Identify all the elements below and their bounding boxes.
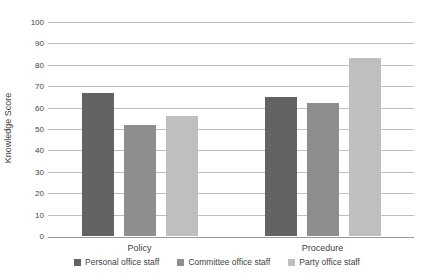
- y-tick-60: 60: [18, 105, 44, 113]
- category-label-procedure: Procedure: [273, 243, 373, 253]
- bar-policy-2: [166, 116, 198, 236]
- plot-area: [48, 23, 414, 237]
- y-tick-90: 90: [18, 40, 44, 48]
- x-axis-line: [48, 237, 414, 238]
- y-tick-0: 0: [18, 233, 44, 241]
- y-tick-40: 40: [18, 147, 44, 155]
- y-tick-80: 80: [18, 62, 44, 70]
- bar-procedure-2: [349, 58, 381, 236]
- legend-item-2: Party office staff: [288, 257, 360, 267]
- category-label-policy: Policy: [90, 243, 190, 253]
- legend-label: Party office staff: [299, 257, 360, 267]
- legend: Personal office staffCommittee office st…: [0, 257, 434, 267]
- bar-policy-0: [82, 93, 114, 236]
- gridline-90: [48, 43, 414, 44]
- y-tick-100: 100: [18, 19, 44, 27]
- y-tick-70: 70: [18, 83, 44, 91]
- legend-swatch-icon: [74, 259, 81, 266]
- y-tick-50: 50: [18, 126, 44, 134]
- legend-item-0: Personal office staff: [74, 257, 159, 267]
- legend-item-1: Committee office staff: [177, 257, 270, 267]
- bar-policy-1: [124, 125, 156, 236]
- y-tick-20: 20: [18, 190, 44, 198]
- legend-label: Committee office staff: [188, 257, 270, 267]
- legend-swatch-icon: [177, 259, 184, 266]
- legend-label: Personal office staff: [85, 257, 159, 267]
- bar-procedure-0: [265, 97, 297, 236]
- bar-procedure-1: [307, 103, 339, 236]
- bar-chart: Knowledge Score 0102030405060708090100 P…: [0, 0, 434, 278]
- y-tick-30: 30: [18, 169, 44, 177]
- gridline-100: [48, 22, 414, 23]
- y-axis-title: Knowledge Score: [3, 73, 13, 183]
- legend-swatch-icon: [288, 259, 295, 266]
- y-tick-10: 10: [18, 212, 44, 220]
